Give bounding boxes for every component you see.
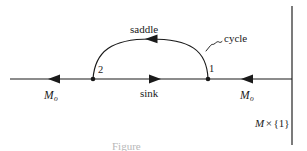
flow-arrow-left-segment bbox=[48, 75, 60, 84]
flow-arrow-middle-segment bbox=[149, 75, 161, 84]
cycle-leader-squiggle bbox=[206, 42, 222, 52]
caption-strip: Figure bbox=[0, 143, 307, 151]
manifold-left-subscript: o bbox=[54, 94, 58, 103]
manifold-right-symbol: M bbox=[240, 89, 250, 101]
manifold-label-left: Mo bbox=[44, 90, 58, 103]
sink-label: sink bbox=[140, 88, 158, 99]
manifold-right-subscript: o bbox=[250, 94, 254, 103]
saddle-connection-arc bbox=[93, 39, 208, 79]
cycle-label: cycle bbox=[224, 33, 247, 44]
manifold-label-right: Mo bbox=[240, 90, 254, 103]
product-space-label: M×{1} bbox=[255, 118, 289, 129]
flow-arrow-right-segment bbox=[241, 75, 253, 84]
product-space-m-symbol: M bbox=[255, 117, 264, 129]
product-space-times-symbol: × bbox=[266, 117, 272, 129]
saddle-label: saddle bbox=[130, 24, 158, 35]
flow-arrow-arc bbox=[145, 35, 158, 44]
product-space-fiber: {1} bbox=[273, 117, 289, 129]
figure-caption: Figure bbox=[112, 143, 141, 151]
manifold-left-symbol: M bbox=[44, 89, 54, 101]
node-label-1: 1 bbox=[209, 64, 214, 75]
node-label-2: 2 bbox=[98, 65, 103, 76]
phase-portrait-figure: saddle cycle 2 1 sink Mo Mo M×{1} Figure bbox=[0, 0, 307, 151]
